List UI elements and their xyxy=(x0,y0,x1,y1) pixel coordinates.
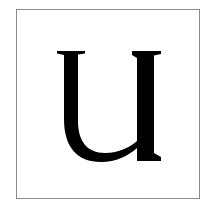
letter-u-icon xyxy=(1,1,212,210)
letter-glyph: U xyxy=(17,10,199,198)
letter-card: U xyxy=(16,9,200,199)
